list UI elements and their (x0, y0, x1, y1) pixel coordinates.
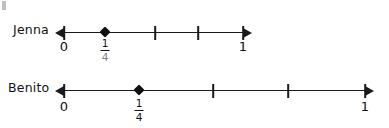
tick-mark (63, 84, 65, 98)
tick-mark (364, 84, 366, 98)
tick-mark (63, 26, 65, 40)
number-line-row-benito: Benito 0 1 1 4 (0, 76, 389, 124)
axis-label-one: 1 (239, 40, 247, 53)
tick-mark (154, 26, 156, 40)
axis-label-one: 1 (361, 100, 369, 113)
worksheet-figure: Jenna 0 1 1 4 Benito (0, 0, 389, 128)
number-line-row-jenna: Jenna 0 1 1 4 (0, 18, 389, 64)
axis-line (64, 90, 365, 91)
scan-artifact (2, 1, 6, 10)
tick-mark (197, 26, 199, 40)
right-arrow-icon (243, 28, 252, 38)
axis-label-zero: 0 (60, 100, 68, 113)
fraction-numerator: 1 (135, 98, 144, 109)
plotted-point (133, 85, 144, 96)
row-label-benito: Benito (8, 82, 49, 95)
axis-label-zero: 0 (60, 40, 68, 53)
tick-mark (242, 26, 244, 40)
number-line-benito (64, 84, 365, 98)
row-label-jenna: Jenna (13, 24, 49, 37)
fraction-denominator: 4 (135, 112, 144, 123)
right-arrow-icon (365, 86, 374, 96)
fraction-numerator: 1 (101, 38, 110, 49)
number-line-jenna (64, 26, 243, 40)
tick-mark (212, 84, 214, 98)
fraction-label-one-fourth: 1 4 (101, 38, 110, 63)
tick-mark (287, 84, 289, 98)
fraction-denominator: 4 (101, 52, 110, 63)
fraction-label-one-fourth: 1 4 (135, 98, 144, 123)
